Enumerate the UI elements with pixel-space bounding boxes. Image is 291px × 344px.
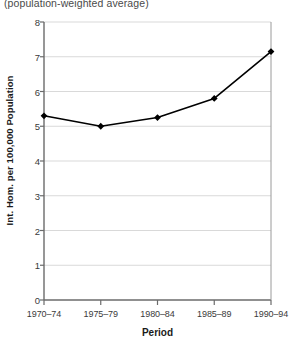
x-tick-label-1: 1975–79: [84, 309, 118, 319]
x-tick-label-3: 1985–89: [197, 309, 231, 319]
x-tick-label-4: 1990–94: [254, 309, 288, 319]
x-axis-title: Period: [44, 327, 271, 338]
x-axis-tick-labels: 1970–741975–791980–841985–891990–94: [0, 0, 291, 344]
x-tick-label-0: 1970–74: [27, 309, 61, 319]
x-tick-label-2: 1980–84: [140, 309, 174, 319]
chart-figure: (population-weighted average) Int. Hom. …: [0, 0, 291, 344]
